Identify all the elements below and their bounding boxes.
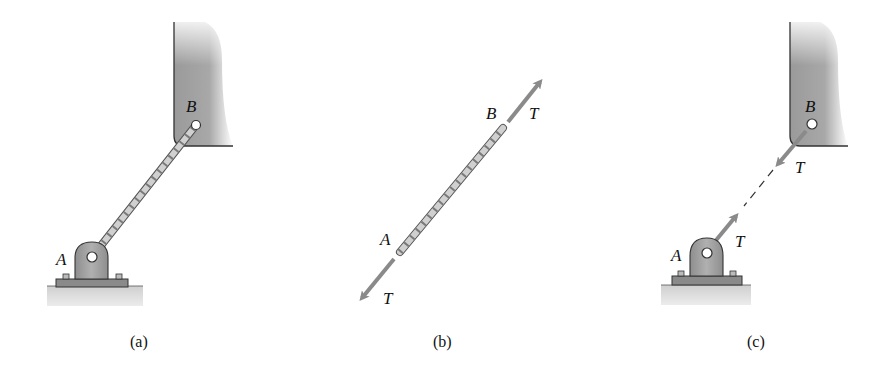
cable: [92, 125, 196, 257]
label-b: B: [186, 97, 197, 116]
panel-b: B T A T (b): [362, 82, 540, 351]
cable: [400, 128, 503, 252]
panel-a: B A (a): [47, 22, 234, 351]
caption-a: (a): [130, 333, 148, 351]
label-t-at-b: T: [795, 158, 806, 177]
label-b: B: [805, 97, 816, 116]
panel-c: B T T A (c): [661, 22, 850, 351]
wall-bracket-b: [790, 22, 850, 146]
label-t-bottom: T: [383, 289, 394, 308]
pin-b: [192, 121, 201, 130]
label-b: B: [486, 104, 497, 123]
label-t-at-a: T: [735, 232, 746, 251]
label-a: A: [670, 246, 682, 265]
statics-diagram: B A (a) B T A T (b): [0, 0, 890, 365]
label-t-top: T: [529, 104, 540, 123]
label-a: A: [379, 230, 391, 249]
caption-c: (c): [747, 333, 765, 351]
wall-bracket-b: [174, 22, 234, 146]
cable-dashed: [744, 170, 773, 206]
label-a: A: [55, 250, 67, 269]
pin-b: [807, 119, 817, 129]
caption-b: (b): [433, 333, 452, 351]
